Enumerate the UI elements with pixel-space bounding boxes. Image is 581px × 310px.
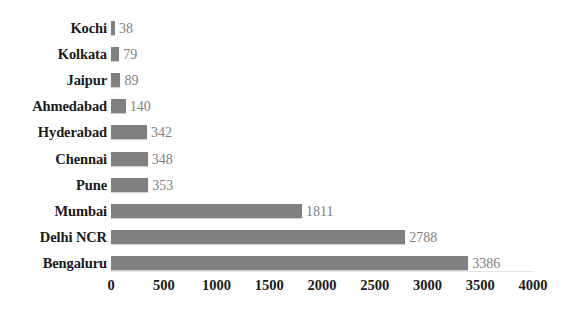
- category-label: Delhi NCR: [0, 224, 107, 250]
- category-label: Ahmedabad: [0, 93, 107, 119]
- bar-value-label: 348: [148, 146, 173, 172]
- bar-value-label: 79: [119, 41, 137, 67]
- bar[interactable]: [111, 125, 147, 139]
- bar-track: 342: [111, 119, 581, 145]
- bar[interactable]: [111, 204, 302, 218]
- bar-value-label: 2788: [405, 224, 437, 250]
- bar-value-label: 140: [126, 93, 151, 119]
- category-label: Jaipur: [0, 67, 107, 93]
- bar-track: 79: [111, 41, 581, 67]
- bar-track: 353: [111, 172, 581, 198]
- x-axis-tick-label: 1000: [202, 277, 231, 294]
- chart-plot-area: Kochi38Kolkata79Jaipur89Ahmedabad140Hyde…: [0, 0, 581, 271]
- category-label: Kolkata: [0, 41, 107, 67]
- bar[interactable]: [111, 99, 126, 113]
- bar-chart: Kochi38Kolkata79Jaipur89Ahmedabad140Hyde…: [0, 0, 581, 310]
- bar[interactable]: [111, 152, 148, 166]
- x-axis-tick-label: 500: [153, 277, 175, 294]
- category-label: Kochi: [0, 15, 107, 41]
- bar[interactable]: [111, 73, 120, 87]
- bar-track: 348: [111, 146, 581, 172]
- bar-value-label: 353: [148, 172, 173, 198]
- x-axis-tick-label: 3000: [413, 277, 442, 294]
- bar-track: 1811: [111, 198, 581, 224]
- chart-row: Delhi NCR2788: [0, 224, 581, 250]
- category-label: Bengaluru: [0, 250, 107, 276]
- bar-track: 89: [111, 67, 581, 93]
- bar-value-label: 38: [115, 15, 133, 41]
- x-axis-tick-label: 4000: [519, 277, 548, 294]
- bar-value-label: 1811: [302, 198, 333, 224]
- bar-track: 38: [111, 15, 581, 41]
- category-label: Mumbai: [0, 198, 107, 224]
- chart-row: Chennai348: [0, 146, 581, 172]
- bar[interactable]: [111, 256, 468, 270]
- chart-row: Kolkata79: [0, 41, 581, 67]
- bar-track: 2788: [111, 224, 581, 250]
- x-axis-tick-label: 2500: [360, 277, 389, 294]
- x-axis: 05001000150020002500300035004000: [111, 271, 533, 310]
- x-axis-tick-label: 1500: [255, 277, 284, 294]
- category-label: Hyderabad: [0, 119, 107, 145]
- bar[interactable]: [111, 230, 405, 244]
- chart-row: Jaipur89: [0, 67, 581, 93]
- chart-row: Mumbai1811: [0, 198, 581, 224]
- chart-row: Kochi38: [0, 15, 581, 41]
- chart-row: Ahmedabad140: [0, 93, 581, 119]
- bar-value-label: 89: [120, 67, 138, 93]
- bar[interactable]: [111, 47, 119, 61]
- chart-row: Hyderabad342: [0, 119, 581, 145]
- bar-track: 140: [111, 93, 581, 119]
- x-axis-tick-label: 3500: [466, 277, 495, 294]
- x-axis-tick-label: 0: [107, 277, 114, 294]
- chart-row: Pune353: [0, 172, 581, 198]
- category-label: Chennai: [0, 146, 107, 172]
- x-axis-line: [111, 271, 533, 272]
- bar[interactable]: [111, 178, 148, 192]
- category-label: Pune: [0, 172, 107, 198]
- bar-value-label: 342: [147, 119, 172, 145]
- x-axis-tick-label: 2000: [308, 277, 337, 294]
